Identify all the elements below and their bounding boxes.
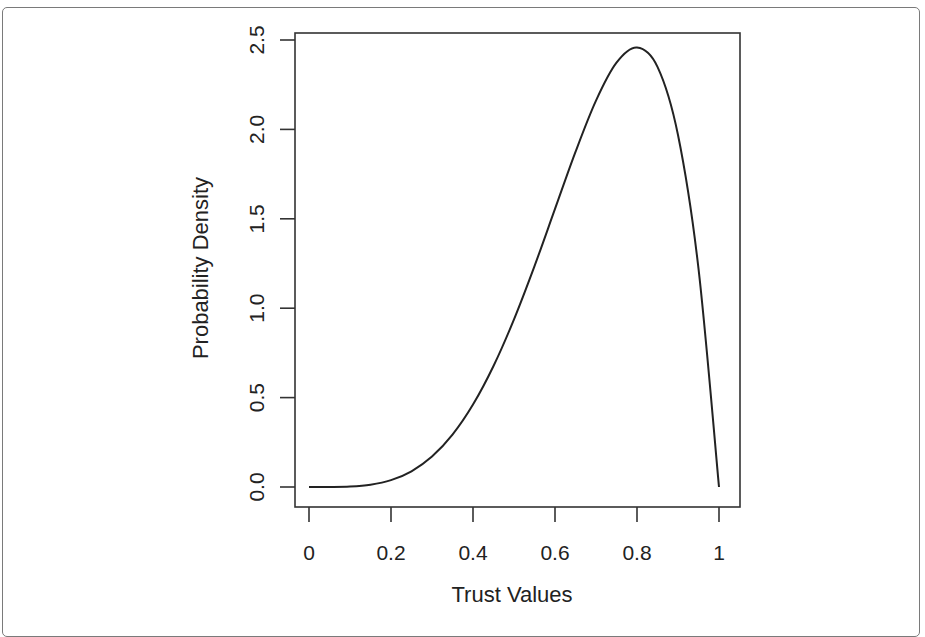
y-tick-label: 2.0 bbox=[245, 115, 268, 144]
x-axis: 00.20.40.60.81 bbox=[303, 507, 725, 564]
y-tick-label: 2.5 bbox=[245, 25, 268, 54]
y-axis-title: Probability Density bbox=[188, 177, 213, 359]
x-tick-label: 0.2 bbox=[376, 541, 405, 564]
plot-box bbox=[295, 33, 740, 507]
y-axis: 0.00.51.01.52.02.5 bbox=[245, 25, 295, 501]
x-tick-label: 0.4 bbox=[458, 541, 488, 564]
x-axis-title: Trust Values bbox=[451, 582, 572, 607]
x-tick-label: 1 bbox=[713, 541, 725, 564]
x-tick-label: 0.6 bbox=[540, 541, 569, 564]
y-tick-label: 1.5 bbox=[245, 204, 268, 233]
x-tick-label: 0.8 bbox=[622, 541, 651, 564]
y-tick-label: 0.5 bbox=[245, 383, 268, 412]
y-tick-label: 0.0 bbox=[245, 472, 268, 501]
y-tick-label: 1.0 bbox=[245, 294, 268, 323]
density-curve bbox=[309, 48, 719, 487]
x-tick-label: 0 bbox=[303, 541, 315, 564]
